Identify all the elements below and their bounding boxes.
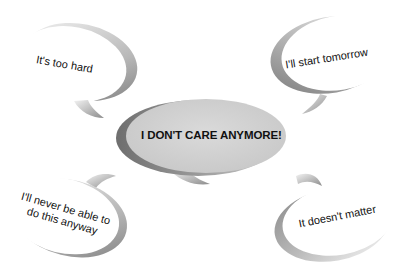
bubble-center [116, 99, 286, 185]
center-bubble-text: I DON'T CARE ANYMORE! [141, 129, 282, 141]
center-text: I DON'T CARE ANYMORE! [141, 129, 282, 141]
diagram-canvas: It's too hard I'll start tomorrow I'll n… [0, 0, 402, 279]
